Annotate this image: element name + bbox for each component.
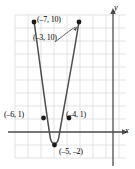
graph-figure: (–7, 10) (–3, 10) (–6, 1) (–4, 1) (–5, –… [0, 0, 135, 169]
x-axis-label: x [125, 126, 129, 135]
point-neg3-10 [77, 20, 82, 25]
x-axis [8, 129, 128, 135]
point-label-neg5-neg2: (–5, –2) [59, 148, 83, 156]
point-label-neg3-10: (–3, 10) [33, 34, 57, 42]
y-axis-label: y [114, 3, 118, 12]
point-label-neg4-1: (–4, 1) [66, 111, 86, 119]
point-label-neg7-10: (–7, 10) [37, 16, 61, 24]
grid-lines [15, 15, 126, 158]
y-axis [110, 8, 116, 166]
point-neg6-1 [41, 116, 46, 121]
point-label-neg6-1: (–6, 1) [4, 111, 24, 119]
coordinate-plane [0, 0, 135, 169]
point-neg7-10 [32, 20, 37, 25]
point-neg5-neg2 [52, 143, 57, 148]
